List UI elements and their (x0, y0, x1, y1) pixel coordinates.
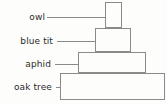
pyramid-block-owl (106, 3, 122, 28)
ecological-pyramid-diagram: owl blue tit aphid oak tree (0, 0, 167, 105)
pyramid-block-aphid (79, 53, 146, 73)
pyramid-label-owl: owl (0, 13, 45, 22)
pyramid-label-oak-tree: oak tree (0, 83, 52, 92)
pyramid-label-blue-tit: blue tit (0, 37, 53, 46)
pyramid-label-aphid: aphid (0, 60, 51, 69)
pyramid-block-oak-tree (61, 74, 165, 100)
pyramid-block-blue-tit (96, 29, 131, 52)
